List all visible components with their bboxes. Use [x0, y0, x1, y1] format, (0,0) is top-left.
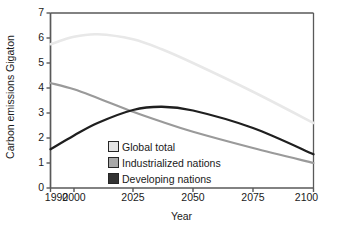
legend-swatch-icon [108, 157, 119, 168]
series-line-global-total [51, 34, 314, 123]
legend-item: Developing nations [108, 171, 221, 186]
legend-label: Global total [122, 141, 175, 153]
chart-figure: Carbon emissions Gigaton 01234567 199020… [0, 0, 343, 230]
plot-area [0, 0, 343, 230]
chart-legend: Global totalIndustrialized nationsDevelo… [108, 139, 221, 186]
legend-label: Developing nations [122, 173, 211, 185]
legend-swatch-icon [108, 173, 119, 184]
legend-item: Global total [108, 139, 221, 154]
legend-item: Industrialized nations [108, 155, 221, 170]
legend-label: Industrialized nations [122, 157, 221, 169]
legend-swatch-icon [108, 141, 119, 152]
